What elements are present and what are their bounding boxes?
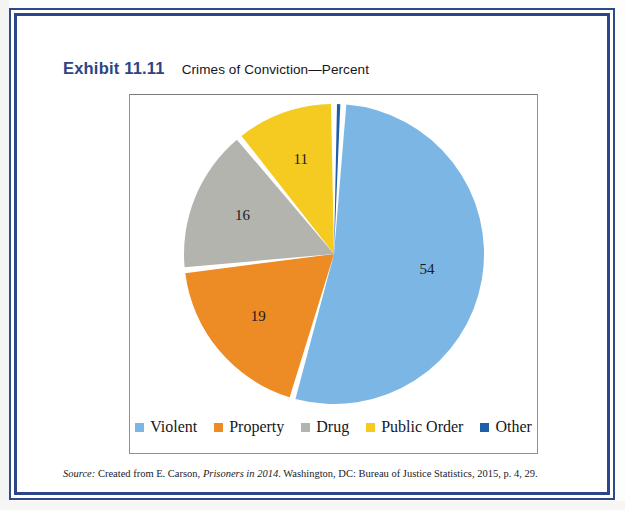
legend-label: Public Order [381,418,463,436]
legend-item: Property [214,418,284,436]
source-text-before: Created from E. Carson, [95,468,203,479]
pie-slice-value-label: 19 [250,308,265,324]
source-note: Source: Created from E. Carson, Prisoner… [63,468,608,479]
legend-item: Public Order [366,418,463,436]
legend-label: Violent [150,418,197,436]
page-edge-bottom [0,501,625,510]
pie-chart-svg: 154191611 [181,101,487,407]
pie-chart: 154191611 [181,101,487,407]
source-prefix: Source: [63,468,95,479]
source-text-after: . Washington, DC: Bureau of Justice Stat… [278,468,537,479]
legend-item: Violent [135,418,197,436]
exhibit-number: Exhibit 11.11 [63,59,165,78]
exhibit-page: Exhibit 11.11 Crimes of Conviction—Perce… [0,0,625,510]
inner-border: Exhibit 11.11 Crimes of Conviction—Perce… [14,13,610,495]
page-edge-left [0,0,9,510]
legend-label: Other [495,418,531,436]
exhibit-heading: Exhibit 11.11 Crimes of Conviction—Perce… [63,59,369,78]
pie-slice-group [183,104,483,404]
legend-swatch-icon [301,423,310,432]
legend-swatch-icon [214,423,223,432]
source-publication-title: Prisoners in 2014 [203,468,278,479]
chart-panel: 154191611 ViolentPropertyDrugPublic Orde… [129,94,538,454]
pie-slice-value-label: 54 [419,261,435,277]
chart-legend: ViolentPropertyDrugPublic OrderOther [130,418,537,436]
legend-item: Other [480,418,531,436]
pie-slice-value-label: 11 [293,151,307,167]
legend-swatch-icon [480,423,489,432]
pie-slice-value-label: 16 [234,207,250,223]
legend-swatch-icon [135,423,144,432]
exhibit-caption: Crimes of Conviction—Percent [182,62,369,77]
legend-label: Property [229,418,284,436]
legend-item: Drug [301,418,349,436]
legend-swatch-icon [366,423,375,432]
legend-label: Drug [316,418,349,436]
